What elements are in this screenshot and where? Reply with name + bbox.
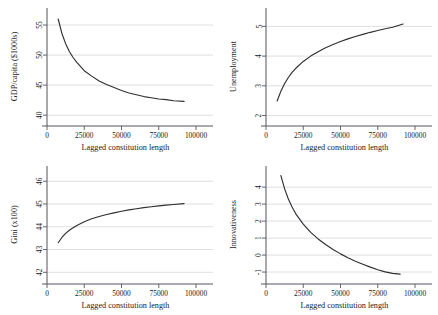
plot-area-top-left: 404550550250005000075000100000Lagged con… — [0, 0, 219, 157]
x-tick-label: 50000 — [331, 131, 350, 140]
y-tick-label: 45 — [36, 81, 45, 89]
y-axis-title: Unemployment — [229, 40, 238, 92]
chart-panel-bottom-right: -1012340250005000075000100000Lagged cons… — [219, 158, 438, 315]
y-tick-label: 45 — [36, 200, 45, 208]
x-axis-ticks: 0250005000075000100000 — [45, 126, 207, 140]
figure-panel-grid: 404550550250005000075000100000Lagged con… — [0, 0, 438, 315]
y-tick-label: 44 — [36, 223, 45, 231]
y-tick-label: 1 — [255, 236, 264, 240]
x-tick-label: 0 — [264, 131, 268, 140]
data-curve — [58, 204, 184, 243]
axes — [261, 8, 432, 126]
x-tick-label: 75000 — [150, 131, 169, 140]
y-tick-label: 4 — [255, 185, 264, 189]
x-tick-label: 0 — [45, 289, 49, 298]
data-curve — [277, 24, 403, 101]
axes — [42, 166, 213, 284]
y-tick-label: 55 — [36, 21, 45, 29]
x-tick-label: 25000 — [294, 289, 313, 298]
y-tick-label: 5 — [255, 24, 264, 28]
y-tick-label: 43 — [36, 246, 45, 254]
y-axis-title: Gini (x100) — [10, 205, 19, 244]
axes — [42, 8, 213, 126]
x-tick-label: 50000 — [112, 289, 131, 298]
y-tick-label: 50 — [36, 51, 45, 59]
x-tick-label: 50000 — [112, 131, 131, 140]
y-axis-title: GDP/capita ($1000s) — [10, 32, 19, 102]
y-tick-label: 2 — [255, 219, 264, 223]
plot-area-bottom-right: -1012340250005000075000100000Lagged cons… — [219, 158, 438, 315]
y-tick-label: 0 — [255, 253, 264, 257]
x-axis-title: Lagged constitution length — [82, 301, 170, 310]
y-axis-ticks: 4243444546 — [36, 177, 48, 276]
x-tick-label: 100000 — [185, 289, 207, 298]
x-tick-label: 25000 — [75, 289, 94, 298]
x-axis-title: Lagged constitution length — [301, 143, 389, 152]
y-axis-title: Innovativeness — [229, 200, 238, 249]
x-tick-label: 100000 — [185, 131, 207, 140]
gridlines — [266, 26, 432, 115]
x-axis-ticks: 0250005000075000100000 — [264, 126, 426, 140]
y-tick-label: 46 — [36, 177, 45, 185]
gridlines — [266, 187, 432, 272]
x-axis-title: Lagged constitution length — [82, 143, 170, 152]
x-tick-label: 25000 — [75, 131, 94, 140]
chart-panel-top-left: 404550550250005000075000100000Lagged con… — [0, 0, 219, 157]
gridlines — [47, 181, 213, 272]
y-tick-label: 40 — [36, 111, 45, 119]
x-tick-label: 25000 — [294, 131, 313, 140]
x-tick-label: 75000 — [369, 131, 388, 140]
x-tick-label: 100000 — [404, 131, 426, 140]
axes — [261, 166, 432, 284]
y-tick-label: 4 — [255, 54, 264, 58]
x-tick-label: 100000 — [404, 289, 426, 298]
x-axis-ticks: 0250005000075000100000 — [264, 284, 426, 298]
plot-area-top-right: 23450250005000075000100000Lagged constit… — [219, 0, 438, 157]
y-tick-label: 2 — [255, 113, 264, 117]
chart-panel-bottom-left: 42434445460250005000075000100000Lagged c… — [0, 158, 219, 315]
y-axis-ticks: 2345 — [255, 24, 267, 117]
data-curve — [281, 176, 400, 275]
data-curve — [58, 19, 184, 101]
y-tick-label: 3 — [255, 84, 264, 88]
x-axis-ticks: 0250005000075000100000 — [45, 284, 207, 298]
y-tick-label: -1 — [255, 269, 264, 275]
x-tick-label: 50000 — [331, 289, 350, 298]
y-axis-ticks: 40455055 — [36, 21, 48, 119]
x-tick-label: 0 — [264, 289, 268, 298]
y-axis-ticks: -101234 — [255, 185, 267, 275]
y-tick-label: 42 — [36, 268, 45, 276]
x-tick-label: 75000 — [150, 289, 169, 298]
plot-area-bottom-left: 42434445460250005000075000100000Lagged c… — [0, 158, 219, 315]
x-tick-label: 0 — [45, 131, 49, 140]
chart-panel-top-right: 23450250005000075000100000Lagged constit… — [219, 0, 438, 157]
gridlines — [47, 25, 213, 115]
y-tick-label: 3 — [255, 202, 264, 206]
x-tick-label: 75000 — [369, 289, 388, 298]
x-axis-title: Lagged constitution length — [301, 301, 389, 310]
